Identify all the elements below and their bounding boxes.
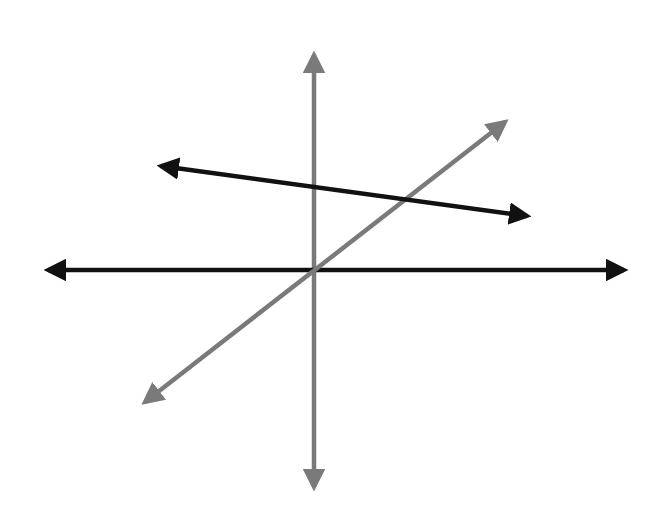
lines-diagram	[0, 0, 670, 519]
sloped-line	[161, 166, 527, 216]
diagonal-line	[145, 122, 505, 402]
